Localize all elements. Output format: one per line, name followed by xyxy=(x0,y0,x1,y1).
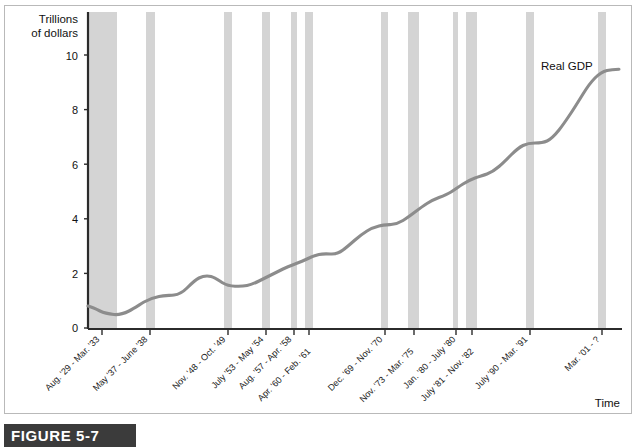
recession-band xyxy=(305,12,313,328)
y-tick-label-10: 10 xyxy=(66,50,78,62)
recession-label: Apr. '60 - Feb. '61 xyxy=(256,346,313,403)
real-gdp-series-label: Real GDP xyxy=(541,60,593,72)
recession-band xyxy=(466,12,477,328)
recession-band xyxy=(453,12,458,328)
y-tick-label-8: 8 xyxy=(72,104,78,116)
x-axis-title: Time xyxy=(595,397,620,409)
recession-bands-group xyxy=(88,12,606,328)
y-axis-title-line2: of dollars xyxy=(31,27,78,39)
recession-band xyxy=(526,12,534,328)
figure-caption-bar: FIGURE 5-7 xyxy=(4,424,136,447)
recession-band xyxy=(88,12,117,328)
real-gdp-chart: 0 2 4 6 8 10 Trillions of dollars Aug. '… xyxy=(0,0,637,447)
recession-labels-group: Aug. '29 - Mar. '33 May '37 - June '38 N… xyxy=(43,334,601,404)
recession-band xyxy=(291,12,297,328)
recession-band xyxy=(224,12,232,328)
recession-band xyxy=(146,12,155,328)
recession-label: Aug. '57 - Apr. '58 xyxy=(237,334,294,391)
recession-band xyxy=(408,12,419,328)
recession-label: Jan. '80 - July '80 xyxy=(401,334,457,390)
figure-caption-label: FIGURE 5-7 xyxy=(11,427,100,444)
y-tick-label-0: 0 xyxy=(72,322,78,334)
figure-container: 0 2 4 6 8 10 Trillions of dollars Aug. '… xyxy=(0,0,637,447)
y-tick-label-2: 2 xyxy=(72,268,78,280)
y-axis-title-line1: Trillions xyxy=(39,13,78,25)
recession-label: July '81 - Nov. '82 xyxy=(419,346,476,403)
y-tick-label-6: 6 xyxy=(72,159,78,171)
recession-label: Mar. '01 - ? xyxy=(563,334,602,373)
real-gdp-line xyxy=(88,69,619,314)
recession-band xyxy=(381,12,388,328)
recession-band xyxy=(598,12,606,328)
recession-label: July '90 - Mar. '91 xyxy=(473,334,530,391)
y-tick-label-4: 4 xyxy=(72,213,78,225)
